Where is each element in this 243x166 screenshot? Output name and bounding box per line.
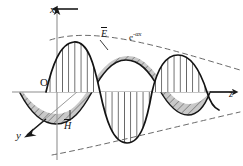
x-axis-label: x xyxy=(50,4,55,15)
h-field-vector-label: H xyxy=(64,119,71,131)
origin-label: O xyxy=(40,77,48,88)
z-axis-label: z xyxy=(229,89,233,99)
y-axis-label: y xyxy=(16,130,21,141)
diagram-canvas xyxy=(0,0,243,166)
em-wave-diagram: x y z O E H e-αx xyxy=(0,0,243,166)
e-field-letter: E xyxy=(101,28,107,39)
envelope-exponent: -αx xyxy=(133,30,141,37)
h-field-letter: H xyxy=(64,120,71,131)
e-field-leader-line xyxy=(100,40,108,50)
envelope-equation-label: e-αx xyxy=(129,33,141,42)
e-field-vector-label: E xyxy=(101,27,107,39)
